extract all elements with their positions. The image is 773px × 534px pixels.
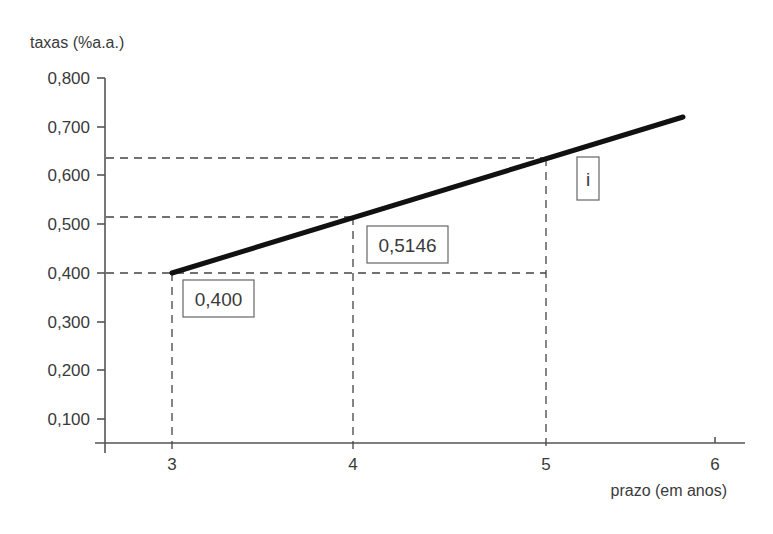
annotation-box-0400: 0,400 (183, 280, 254, 317)
annotation-box-i: i (577, 157, 599, 200)
y-tick-label: 0,700 (47, 118, 90, 137)
reference-lines (106, 158, 546, 450)
annotation-box-05146: 0,5146 (367, 226, 448, 263)
x-axis (95, 437, 745, 443)
y-tick-label: 0,400 (47, 264, 90, 283)
x-tick-label: 3 (167, 455, 176, 474)
x-tick-labels: 3 4 5 6 (167, 455, 719, 474)
svg-text:0,400: 0,400 (195, 289, 243, 310)
x-axis-title: prazo (em anos) (611, 482, 728, 499)
svg-text:i: i (586, 169, 590, 190)
y-tick-labels: 0,800 0,700 0,600 0,500 0,400 0,300 0,20… (47, 69, 90, 429)
y-tick-label: 0,500 (47, 215, 90, 234)
y-tick-label: 0,600 (47, 166, 90, 185)
svg-text:0,5146: 0,5146 (378, 235, 436, 256)
y-tick-label: 0,200 (47, 361, 90, 380)
y-tick-label: 0,300 (47, 313, 90, 332)
y-tick-label: 0,100 (47, 410, 90, 429)
y-axis-title: taxas (%a.a.) (30, 34, 124, 51)
x-tick-label: 6 (710, 455, 719, 474)
x-tick-label: 5 (541, 455, 550, 474)
yield-curve-chart: taxas (%a.a.) 0,800 0,700 0,600 0,500 0,… (0, 0, 773, 534)
y-axis (97, 78, 105, 453)
y-tick-label: 0,800 (47, 69, 90, 88)
x-tick-label: 4 (348, 455, 357, 474)
